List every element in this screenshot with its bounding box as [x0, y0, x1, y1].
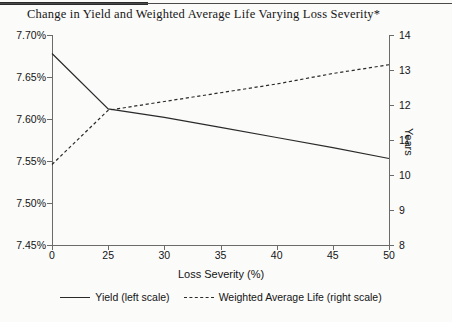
y-left-tick-label: 7.45%: [16, 239, 46, 251]
legend-swatch-solid-icon: [60, 297, 90, 298]
x-tick-label: 0: [49, 249, 55, 261]
x-tick-label: 35: [215, 249, 227, 261]
y-right-tick: [389, 175, 394, 176]
y-left-tick-label: 7.65%: [16, 71, 46, 83]
y-right-tick-label: 12: [399, 99, 411, 111]
legend-item-yield: Yield (left scale): [60, 291, 169, 303]
y-right-tick: [389, 140, 394, 141]
x-tick-label: 25: [102, 249, 114, 261]
y-right-axis-title: Years: [403, 128, 415, 156]
x-tick: [52, 245, 53, 250]
y-right-tick: [389, 70, 394, 71]
y-right-tick-label: 13: [399, 64, 411, 76]
x-tick: [389, 245, 390, 250]
legend-label-yield: Yield (left scale): [95, 291, 169, 303]
series-lines: [52, 35, 390, 246]
legend: Yield (left scale) Weighted Average Life…: [52, 291, 390, 303]
y-right-tick: [389, 105, 394, 106]
x-tick-label: 30: [158, 249, 170, 261]
x-tick: [277, 245, 278, 250]
chart-title: Change in Yield and Weighted Average Lif…: [27, 7, 380, 22]
x-tick-label: 40: [271, 249, 283, 261]
y-right-tick-label: 8: [399, 239, 405, 251]
y-left-tick-label: 7.70%: [16, 29, 46, 41]
legend-swatch-dashed-icon: [184, 297, 214, 298]
top-rule-thin: [0, 3, 452, 4]
legend-item-weighted-average-life: Weighted Average Life (right scale): [184, 291, 382, 303]
plot-area: 0253035404550: [52, 35, 390, 246]
x-tick: [221, 245, 222, 250]
y-left-tick-label: 7.50%: [16, 197, 46, 209]
x-tick: [164, 245, 165, 250]
y-left-tick: [47, 203, 52, 204]
x-axis-title: Loss Severity (%): [52, 268, 390, 280]
y-left-tick: [47, 119, 52, 120]
y-left-tick: [47, 161, 52, 162]
y-right-tick-label: 9: [399, 204, 405, 216]
y-left-tick: [47, 35, 52, 36]
y-right-tick-label: 10: [399, 169, 411, 181]
series-line-yield: [52, 53, 389, 158]
x-tick: [333, 245, 334, 250]
legend-label-weighted-average-life: Weighted Average Life (right scale): [219, 291, 382, 303]
y-right-tick: [389, 35, 394, 36]
figure: Change in Yield and Weighted Average Lif…: [0, 0, 452, 322]
y-left-tick-labels: 7.70%7.65%7.60%7.55%7.50%7.45%: [0, 35, 46, 246]
series-line-weighted-average-life: [52, 65, 389, 165]
y-left-tick-label: 7.60%: [16, 113, 46, 125]
y-left-tick: [47, 77, 52, 78]
y-right-tick: [389, 210, 394, 211]
x-tick-label: 45: [327, 249, 339, 261]
y-right-tick-label: 14: [399, 29, 411, 41]
y-left-tick-label: 7.55%: [16, 155, 46, 167]
x-tick: [108, 245, 109, 250]
x-tick-label: 50: [383, 249, 395, 261]
